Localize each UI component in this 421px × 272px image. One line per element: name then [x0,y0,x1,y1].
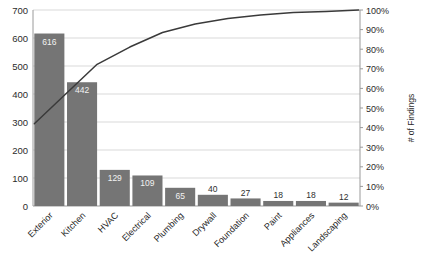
y-tick-label: 300 [12,117,28,128]
y2-tick-label: 10% [366,182,384,192]
y2-tick-label: 40% [366,123,384,133]
bar-value-label: 18 [306,190,316,200]
pareto-chart: 616442129109654027181812 010020030040050… [0,0,421,272]
bar-value-label: 27 [241,188,251,198]
bar-value-label: 12 [339,192,349,202]
y-tick-label: 500 [12,61,28,72]
y2-tick-label: 20% [366,162,384,172]
bar [67,82,97,206]
y-tick-label: 400 [12,89,28,100]
x-tick-label: Kitchen [59,210,87,238]
bar-value-label: 18 [274,190,284,200]
bar [296,201,326,206]
chart-canvas: 616442129109654027181812 010020030040050… [0,0,421,272]
y2-tick-label: 80% [366,45,384,55]
bar-value-label: 616 [42,37,56,47]
x-tick-label: Exterior [26,210,55,239]
y-axis-left: 0100200300400500600700 [12,5,28,212]
bar-value-label: 129 [108,173,122,183]
y-axis-right-title: # of Findings [406,94,416,143]
bar-value-label: 65 [175,191,185,201]
y-axis-right: 0%10%20%30%40%50%60%70%80%90%100% [360,6,389,212]
x-axis-labels: ExteriorKitchenHVACElectricalPlumbingDry… [26,210,349,254]
y2-tick-label: 50% [366,104,384,114]
y2-tick-label: 30% [366,143,384,153]
x-tick-label: Drywall [190,210,218,238]
y2-tick-label: 60% [366,84,384,94]
bar-value-label: 40 [208,184,218,194]
x-tick-label: Plumbing [152,210,186,244]
y-tick-label: 700 [12,5,28,16]
y-tick-label: 0 [23,201,28,212]
y2-tick-label: 90% [366,25,384,35]
y-tick-label: 600 [12,33,28,44]
y2-tick-label: 100% [366,6,389,16]
x-tick-label: Foundation [212,210,251,249]
y-tick-label: 200 [12,145,28,156]
bar-value-label: 442 [75,85,89,95]
bar-value-label: 109 [140,178,154,188]
y2-tick-label: 70% [366,64,384,74]
bar [329,203,359,206]
bar [231,198,261,206]
y2-tick-label: 0% [366,202,379,212]
x-tick-label: Paint [262,210,284,232]
y-tick-label: 100 [12,173,28,184]
bar [263,201,293,206]
x-tick-label: HVAC [96,210,121,235]
x-tick-label: Electrical [120,210,153,243]
bar [198,195,228,206]
